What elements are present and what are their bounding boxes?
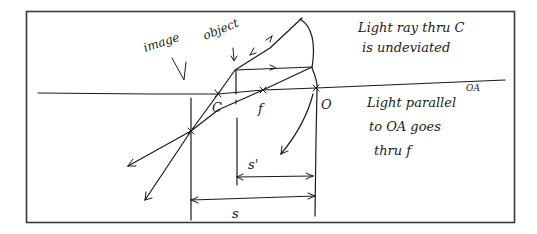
object-pointer xyxy=(231,48,237,61)
ray-arrowhead-reflected xyxy=(250,48,256,55)
object-distance-label: s xyxy=(232,206,239,221)
image-distance-arrow xyxy=(237,176,313,177)
ray-parallel-arrowhead xyxy=(270,65,276,70)
optical-axis xyxy=(38,80,505,94)
ray-through-focus xyxy=(128,67,312,166)
image-label: image xyxy=(142,30,182,55)
note-center-ray-line2: is undeviated xyxy=(362,40,450,55)
note-center-ray-line1: Light ray thru C xyxy=(357,20,465,35)
optical-axis-label: OA xyxy=(466,83,480,93)
focus-label: f xyxy=(257,101,265,116)
object-distance-arrow xyxy=(191,196,315,200)
note-parallel-ray-line2: to OA goes xyxy=(369,119,441,134)
vertex-label: O xyxy=(321,97,332,112)
note-parallel-ray-line1: Light parallel xyxy=(366,95,456,110)
ray-arrowhead-incoming xyxy=(266,36,272,42)
center-label: C xyxy=(212,100,222,115)
mirror-surface xyxy=(300,19,317,216)
ray-diagram: OA C f O image object s' s Light ray thr… xyxy=(0,0,537,234)
curved-arrow xyxy=(281,94,313,154)
image-distance-label: s' xyxy=(248,157,258,172)
object-label: object xyxy=(201,16,241,43)
image-pointer xyxy=(172,58,186,80)
note-parallel-ray-line3: thru f xyxy=(374,143,413,158)
